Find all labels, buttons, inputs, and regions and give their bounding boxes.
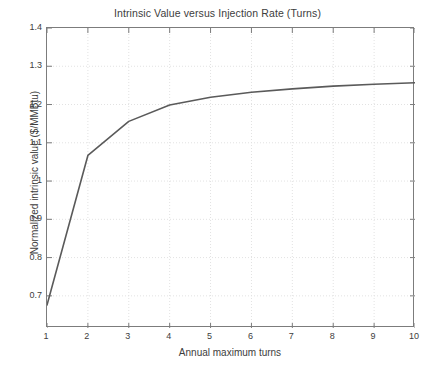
x-axis-label: Annual maximum turns	[46, 347, 414, 358]
x-tick-label: 8	[317, 331, 347, 341]
x-tick-label: 3	[113, 331, 143, 341]
x-tick-label: 10	[399, 331, 429, 341]
x-tick-label: 4	[154, 331, 184, 341]
x-tick-label: 7	[276, 331, 306, 341]
x-tickmarks	[47, 28, 415, 328]
chart-figure: Intrinsic Value versus Injection Rate (T…	[0, 0, 435, 370]
y-tickmarks	[47, 28, 415, 296]
plot-svg	[47, 28, 415, 328]
x-tick-label: 5	[195, 331, 225, 341]
plot-area	[46, 27, 414, 327]
chart-title: Intrinsic Value versus Injection Rate (T…	[0, 7, 435, 19]
x-tick-label: 6	[235, 331, 265, 341]
x-tick-label: 2	[72, 331, 102, 341]
x-tick-label: 9	[358, 331, 388, 341]
y-axis-label: Normalized intrinsic value ($/MMBtu)	[29, 53, 40, 293]
x-gridlines	[88, 28, 374, 328]
x-tick-label: 1	[31, 331, 61, 341]
data-series-line	[47, 83, 415, 305]
y-tick-label: 1.4	[2, 22, 42, 32]
y-gridlines	[47, 66, 415, 296]
